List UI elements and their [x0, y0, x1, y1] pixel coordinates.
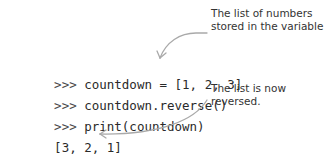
arrow-top-icon	[157, 33, 207, 58]
annotation-arrows	[0, 0, 331, 156]
arrow-bottom-icon	[100, 100, 207, 138]
